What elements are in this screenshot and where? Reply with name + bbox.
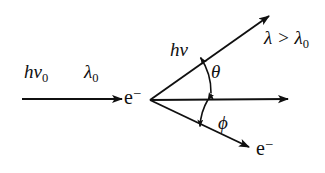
scattered-wavelength-relation-label: λ > λ0 bbox=[264, 28, 309, 50]
incident-wavelength-label: λ0 bbox=[84, 62, 99, 84]
lambda-comparison-symbol: λ > λ bbox=[264, 27, 303, 48]
nu-symbol: ν bbox=[180, 39, 188, 60]
scattered-wavelength-subscript: 0 bbox=[303, 37, 309, 51]
planck-constant-symbol: h bbox=[24, 61, 34, 82]
scattered-photon-energy-label: hν bbox=[170, 40, 188, 59]
compton-scattering-figure: hν0 λ0 e− hν λ > λ0 θ ϕ e− bbox=[0, 0, 325, 173]
scattered-photon-arrow bbox=[150, 16, 269, 100]
lambda-symbol: λ bbox=[84, 61, 92, 82]
horizontal-axis-arrow bbox=[150, 99, 288, 100]
recoil-electron-label: e− bbox=[256, 137, 273, 158]
phi-angle-label: ϕ bbox=[218, 113, 228, 132]
electron-charge-sign: − bbox=[265, 136, 273, 152]
phi-angle-arc bbox=[200, 100, 208, 127]
electron-charge-sign: − bbox=[133, 85, 141, 101]
planck-constant-symbol: h bbox=[170, 39, 180, 60]
incident-photon-energy-label: hν0 bbox=[24, 62, 48, 84]
incident-photon-subscript: 0 bbox=[42, 71, 48, 85]
diagram-canvas bbox=[0, 0, 325, 173]
incident-wavelength-subscript: 0 bbox=[92, 71, 98, 85]
electron-symbol: e bbox=[124, 86, 133, 108]
electron-symbol: e bbox=[256, 137, 265, 159]
target-electron-label: e− bbox=[124, 86, 141, 107]
nu-symbol: ν bbox=[34, 61, 42, 82]
theta-angle-label: θ bbox=[211, 62, 220, 81]
